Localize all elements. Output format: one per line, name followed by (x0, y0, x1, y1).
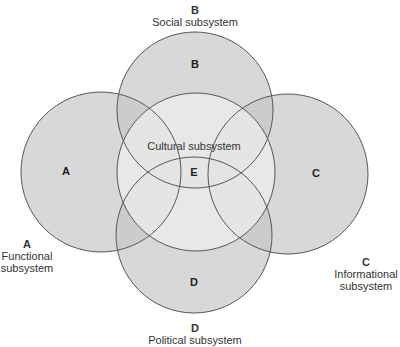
inner-letter-d: D (190, 276, 198, 288)
label-b-letter: B (140, 4, 250, 16)
label-a-functional: A Functional subsystem (0, 238, 54, 274)
label-c-name-line1: Informational (330, 268, 400, 280)
inner-letter-c: C (312, 167, 320, 179)
label-a-name-line2: subsystem (0, 262, 54, 274)
label-d-political: D Political subsystem (140, 322, 250, 346)
label-d-letter: D (140, 322, 250, 334)
label-b-name: Social subsystem (152, 16, 238, 28)
label-c-letter: C (330, 256, 400, 268)
cultural-subsystem-label: Cultural subsystem (147, 140, 241, 152)
inner-letter-a: A (62, 165, 70, 177)
venn-diagram (0, 0, 400, 347)
label-a-name-line1: Functional (0, 250, 54, 262)
label-d-name: Political subsystem (148, 334, 242, 346)
label-b-social: B Social subsystem (140, 4, 250, 28)
label-c-informational: C Informational subsystem (330, 256, 400, 292)
inner-letter-e: E (190, 166, 197, 178)
label-a-letter: A (0, 238, 54, 250)
label-c-name-line2: subsystem (330, 280, 400, 292)
inner-letter-b: B (191, 58, 199, 70)
